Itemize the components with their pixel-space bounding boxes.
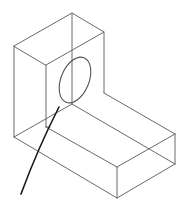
leader-line: [21, 107, 59, 194]
hole-circle: [53, 53, 97, 108]
base-left-bottom-edge: [14, 137, 117, 198]
base-top-back-edge: [104, 93, 175, 134]
bracket-diagram: [0, 0, 186, 201]
base-hidden-diagonal: [72, 104, 175, 164]
base-inner-edge: [46, 127, 117, 167]
upright-top-face: [14, 13, 104, 65]
base-bottom-front-edge: [117, 164, 175, 198]
base-top-front-edge: [117, 134, 175, 167]
isometric-wireframe: [0, 0, 186, 201]
base-back-hidden-edge: [14, 104, 72, 137]
